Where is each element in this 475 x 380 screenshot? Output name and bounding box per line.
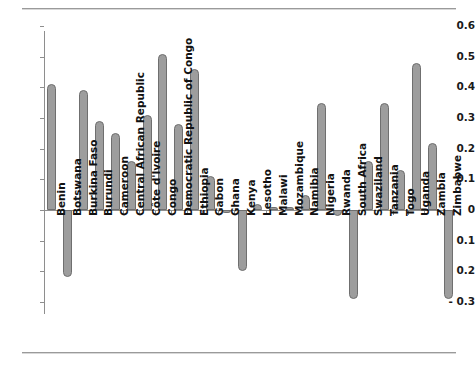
category-label: Swaziland xyxy=(373,156,384,216)
category-label: Ghana xyxy=(230,178,241,216)
category-label: Tanzania xyxy=(389,164,400,216)
category-label: Uganda xyxy=(420,171,431,216)
y-axis-tick-label: - 0.1 xyxy=(435,235,475,246)
y-axis-tick-label: 0.6 xyxy=(435,20,475,31)
y-axis-line xyxy=(44,31,45,314)
y-axis-tick-mark xyxy=(40,118,44,119)
category-label: Rwanda xyxy=(341,169,352,216)
category-label: Democratic Republic of Congo xyxy=(183,38,194,216)
y-axis-tick-mark xyxy=(40,57,44,58)
category-label: Congo xyxy=(167,179,178,216)
category-label: Zimbabwe xyxy=(452,155,463,216)
category-label: Burkina Faso xyxy=(88,139,99,216)
y-axis-tick-mark xyxy=(40,302,44,303)
bar[interactable] xyxy=(238,210,247,271)
category-label: Namibia xyxy=(309,167,320,216)
y-axis-tick-mark xyxy=(40,241,44,242)
bar-chart-plot: 0.60.50.40.30.20.10- 0.1- 0.2- 0.3 Benin… xyxy=(0,0,475,380)
y-axis-tick-label: 0.5 xyxy=(435,51,475,62)
category-label: Nigeria xyxy=(325,173,336,216)
category-label: Benin xyxy=(56,182,67,216)
y-axis-tick-label: - 0.3 xyxy=(435,296,475,307)
y-axis-tick-label: 0.4 xyxy=(435,81,475,92)
category-label: Zambia xyxy=(436,172,447,216)
category-label: Côte d'Ivoire xyxy=(151,141,162,216)
y-axis-tick-mark xyxy=(40,179,44,180)
y-axis-tick-mark xyxy=(40,271,44,272)
category-label: Mozambique xyxy=(294,141,305,216)
category-label: Lesotho xyxy=(262,169,273,216)
category-label: Cameroon xyxy=(119,156,130,216)
category-label: Kenya xyxy=(246,180,257,216)
category-label: Malawi xyxy=(278,174,289,216)
category-label: Togo xyxy=(405,188,416,216)
bar[interactable] xyxy=(349,210,358,299)
category-label: Burundi xyxy=(103,169,114,216)
y-axis-tick-label: 0.2 xyxy=(435,143,475,154)
bar[interactable] xyxy=(444,210,453,299)
y-axis-tick-mark xyxy=(40,149,44,150)
y-axis-tick-mark xyxy=(40,87,44,88)
category-label: Gabon xyxy=(214,178,225,216)
category-label: South Africa xyxy=(357,143,368,216)
category-label: Ethiopia xyxy=(199,167,210,216)
y-axis-tick-mark xyxy=(40,26,44,27)
y-axis-tick-label: - 0.2 xyxy=(435,265,475,276)
x-axis-tick-mark xyxy=(44,211,45,215)
category-label: Botswana xyxy=(72,158,83,216)
chart-page: 0.60.50.40.30.20.10- 0.1- 0.2- 0.3 Benin… xyxy=(0,0,475,380)
y-axis-tick-label: 0.3 xyxy=(435,112,475,123)
category-label: Central African Republic xyxy=(135,72,146,216)
bar[interactable] xyxy=(63,210,72,277)
